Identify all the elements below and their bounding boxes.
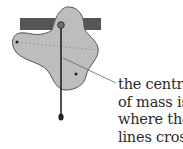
suspension-point-right <box>75 73 78 76</box>
caption-line-4: lines cross <box>118 129 183 147</box>
pivot-pin <box>58 22 65 29</box>
caption-line-1: the centre <box>118 76 183 94</box>
caption-line-3: where the <box>118 111 183 129</box>
caption-line-2: of mass is <box>118 94 183 112</box>
plumb-bob <box>58 113 63 120</box>
caption: the centre of mass is where the lines cr… <box>118 76 183 146</box>
suspension-point-left <box>16 41 19 44</box>
